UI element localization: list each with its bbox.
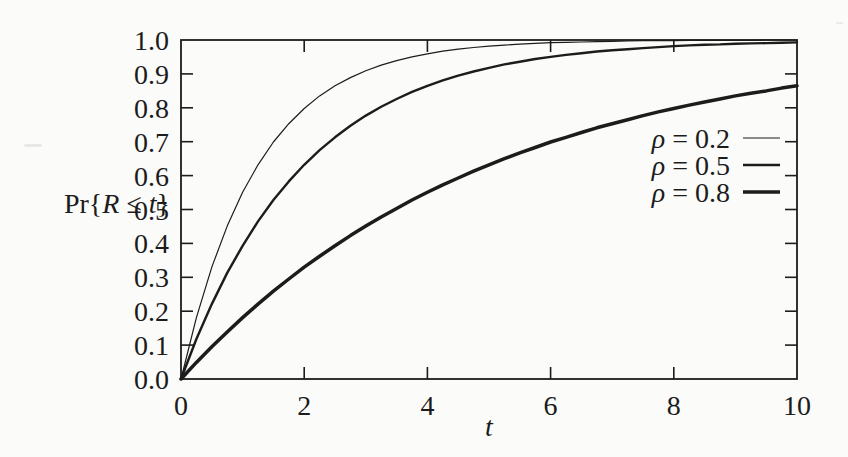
cdf-line-chart: 0.00.10.20.30.40.50.60.70.80.91.00246810… (0, 0, 848, 457)
x-tick-label-2: 2 (297, 390, 311, 421)
scan-speckle (24, 144, 42, 147)
y-tick-label-0.2: 0.2 (134, 296, 169, 327)
y-tick-label-0.7: 0.7 (134, 127, 169, 158)
x-tick-label-6: 6 (544, 390, 558, 421)
plot-frame (181, 40, 797, 379)
y-tick-label-0.3: 0.3 (134, 262, 169, 293)
y-tick-label-0.1: 0.1 (134, 330, 169, 361)
curve-0.2 (181, 40, 797, 379)
scan-speckle (836, 22, 843, 24)
y-tick-label-0.9: 0.9 (134, 59, 169, 90)
scanned-figure-page: 0.00.10.20.30.40.50.60.70.80.91.00246810… (0, 0, 848, 457)
curve-0.5 (181, 42, 797, 379)
y-tick-label-0.6: 0.6 (134, 161, 169, 192)
x-tick-label-10: 10 (783, 390, 811, 421)
x-tick-label-0: 0 (174, 390, 188, 421)
x-axis-title: t (485, 411, 494, 442)
y-axis-title: Pr{R ≤ t} (64, 188, 170, 219)
y-tick-label-1.0: 1.0 (134, 25, 169, 56)
y-tick-label-0.8: 0.8 (134, 93, 169, 124)
x-tick-label-8: 8 (667, 390, 681, 421)
y-tick-label-0.4: 0.4 (134, 228, 169, 259)
x-tick-label-4: 4 (420, 390, 434, 421)
y-tick-label-0.0: 0.0 (134, 364, 169, 395)
legend-label-0.8: ρ = 0.8 (651, 177, 730, 208)
